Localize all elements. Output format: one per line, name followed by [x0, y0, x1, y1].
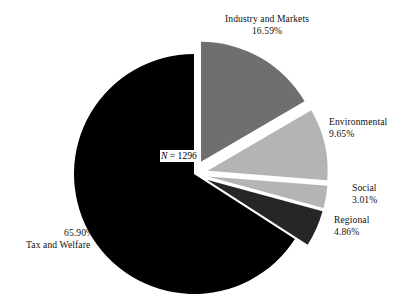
pie-label-regional: Regional 4.86% — [334, 214, 369, 238]
pie-label-social-value: 3.01% — [352, 194, 377, 206]
pie-label-regional-name: Regional — [334, 214, 369, 226]
pie-label-social: Social 3.01% — [352, 182, 377, 206]
pie-label-environmental-value: 9.65% — [329, 128, 387, 140]
pie-label-tax-name: Tax and Welfare — [26, 239, 94, 251]
pie-label-industry-and-markets: Industry and Markets 16.59% — [225, 13, 309, 37]
pie-chart-canvas — [0, 0, 413, 305]
sample-size-annotation: N = 1296 — [160, 150, 198, 162]
pie-label-environmental-name: Environmental — [329, 116, 387, 128]
pie-chart-figure: Industry and Markets 16.59% Environmenta… — [0, 0, 413, 305]
sample-size-value: = 1296 — [167, 150, 196, 161]
pie-label-tax-and-welfare: 65.90% Tax and Welfare — [26, 227, 94, 251]
pie-label-industry-name: Industry and Markets — [225, 13, 309, 25]
pie-slices — [74, 42, 328, 294]
pie-label-tax-value: 65.90% — [26, 227, 94, 239]
pie-label-social-name: Social — [352, 182, 377, 194]
pie-label-environmental: Environmental 9.65% — [329, 116, 387, 140]
pie-label-industry-value: 16.59% — [225, 25, 309, 37]
pie-label-regional-value: 4.86% — [334, 226, 369, 238]
